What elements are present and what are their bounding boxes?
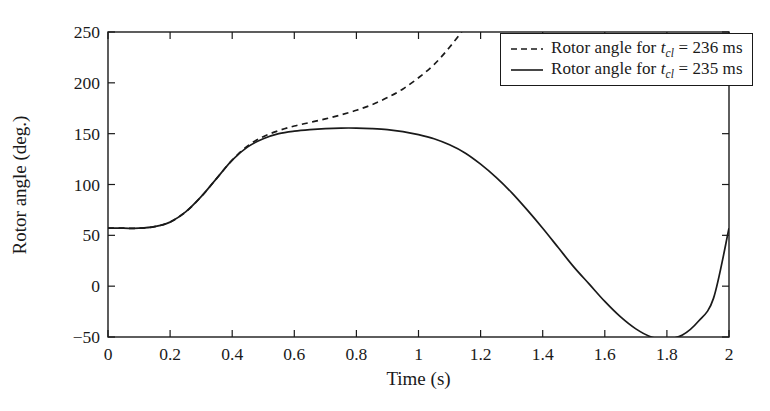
x-tick-label: 1.4: [532, 344, 554, 365]
x-tick-label: 1: [414, 344, 423, 365]
y-tick-label: 200: [74, 72, 100, 93]
x-tick-label: 2: [725, 344, 734, 365]
y-tick-label: 250: [74, 22, 100, 43]
rotor-angle-chart: Rotor angle (deg.) Time (s) 00.20.40.60.…: [0, 0, 770, 411]
y-tick-label: −50: [73, 327, 100, 348]
chart-legend: Rotor angle for tcl = 236 ms Rotor angle…: [500, 33, 753, 86]
x-tick-label: 0.4: [221, 344, 243, 365]
legend-swatch-solid: [510, 64, 544, 76]
legend-label-solid: Rotor angle for tcl = 235 ms: [551, 59, 743, 80]
y-tick-label: 50: [83, 225, 101, 246]
series-line-solid: [108, 128, 729, 339]
legend-item-solid: Rotor angle for tcl = 235 ms: [510, 59, 743, 80]
x-tick-label: 0.6: [283, 344, 305, 365]
x-tick-label: 1.2: [470, 344, 492, 365]
y-tick-label: 100: [74, 174, 100, 195]
x-tick-label: 0.2: [159, 344, 181, 365]
legend-label-dashed: Rotor angle for tcl = 236 ms: [551, 38, 743, 59]
x-tick-label: 1.8: [656, 344, 678, 365]
y-tick-label: 0: [91, 276, 100, 297]
x-tick-label: 0.8: [345, 344, 367, 365]
legend-swatch-dashed: [510, 43, 544, 55]
x-tick-label: 0: [104, 344, 113, 365]
legend-item-dashed: Rotor angle for tcl = 236 ms: [510, 38, 743, 59]
y-tick-label: 150: [74, 123, 100, 144]
x-tick-label: 1.6: [594, 344, 616, 365]
